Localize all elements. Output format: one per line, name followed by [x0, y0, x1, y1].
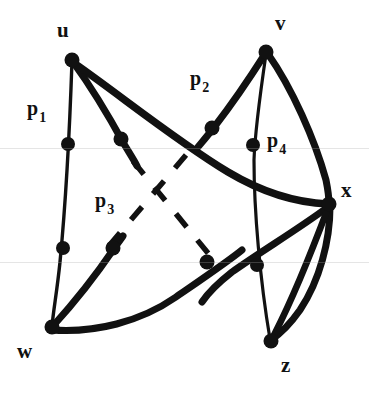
- vertex-x[interactable]: [322, 197, 337, 212]
- path-label-p2-subscript: 2: [202, 80, 209, 95]
- vertex-u[interactable]: [65, 53, 80, 68]
- edge-u-w-left: [52, 61, 72, 327]
- marked-point-p3b[interactable]: [106, 241, 121, 256]
- marked-point-c1[interactable]: [200, 255, 215, 270]
- marked-point-p3a[interactable]: [114, 132, 129, 147]
- edge-v-z-thin: [254, 54, 270, 339]
- path-label-p1-subscript: 1: [39, 110, 46, 125]
- dashed-ne-sw: [108, 155, 186, 247]
- vertex-w[interactable]: [45, 320, 60, 335]
- graph-svg: [0, 0, 369, 395]
- path-label-p3: p3: [95, 190, 113, 210]
- path-label-p4-base: p: [267, 129, 278, 151]
- vertex-label-u: u: [57, 20, 69, 41]
- edge-u-mid-stub: [73, 62, 137, 166]
- vertex-label-x: x: [341, 180, 352, 201]
- path-label-p4-subscript: 4: [279, 142, 286, 157]
- marked-point-p2[interactable]: [205, 121, 220, 136]
- vertex-label-w: w: [17, 341, 32, 362]
- marked-point-p1b[interactable]: [56, 241, 70, 255]
- figure-canvas: u v w x z p1 p2 p3 p4: [0, 0, 369, 395]
- dashed-nw-se: [133, 161, 216, 263]
- vertex-v[interactable]: [259, 45, 274, 60]
- marked-point-p1[interactable]: [61, 137, 75, 151]
- path-label-p3-base: p: [95, 189, 106, 211]
- marked-point-c2[interactable]: [250, 258, 264, 272]
- path-label-p3-subscript: 3: [107, 202, 114, 217]
- marked-point-p4[interactable]: [246, 138, 260, 152]
- path-label-p1: p1: [27, 98, 45, 118]
- path-label-p1-base: p: [27, 97, 38, 119]
- vertex-label-v: v: [275, 13, 286, 34]
- path-label-p2-base: p: [190, 67, 201, 89]
- path-label-p4: p4: [267, 130, 285, 150]
- path-label-p2: p2: [190, 68, 208, 88]
- vertex-z[interactable]: [264, 334, 279, 349]
- vertex-label-z: z: [281, 355, 290, 376]
